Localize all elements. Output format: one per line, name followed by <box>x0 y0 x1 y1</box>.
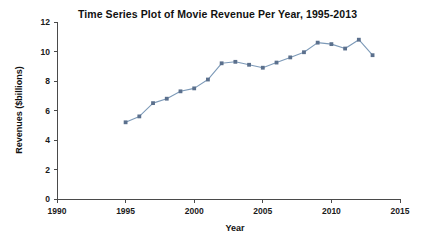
line-chart-plot: 024681012 199019952000200520102015 Reven… <box>0 0 435 242</box>
data-point-marker <box>288 56 292 60</box>
data-point-marker <box>302 50 306 54</box>
y-tick-label: 2 <box>45 165 50 175</box>
y-tick-label: 6 <box>45 106 50 116</box>
x-axis-title: Year <box>225 223 245 233</box>
data-point-marker <box>247 63 251 67</box>
y-axis: 024681012 <box>41 17 57 204</box>
x-tick-label: 2005 <box>253 206 272 216</box>
data-point-marker <box>124 120 128 124</box>
data-point-marker <box>179 89 183 93</box>
data-series <box>124 38 375 124</box>
data-point-marker <box>165 97 169 101</box>
data-point-marker <box>151 101 155 105</box>
x-tick-label: 2010 <box>322 206 341 216</box>
data-point-marker <box>316 41 320 45</box>
y-tick-label: 10 <box>41 47 51 57</box>
data-point-marker <box>357 38 361 42</box>
y-tick-label: 0 <box>45 194 50 204</box>
y-tick-label: 8 <box>45 76 50 86</box>
x-axis: 199019952000200520102015 <box>48 199 410 216</box>
data-point-marker <box>220 61 224 65</box>
x-tick-label: 2000 <box>185 206 204 216</box>
y-tick-label: 4 <box>45 135 50 145</box>
x-tick-label: 2015 <box>391 206 410 216</box>
data-point-marker <box>206 78 210 82</box>
data-point-marker <box>275 61 279 65</box>
x-tick-label: 1995 <box>116 206 135 216</box>
data-point-marker <box>371 53 375 57</box>
data-point-marker <box>233 60 237 64</box>
data-point-marker <box>261 66 265 70</box>
data-point-marker <box>192 86 196 90</box>
y-tick-label: 12 <box>41 17 51 27</box>
data-point-marker <box>330 42 334 46</box>
chart-figure: Time Series Plot of Movie Revenue Per Ye… <box>0 0 435 242</box>
y-axis-title: Revenues ($billions) <box>14 66 24 154</box>
series-line <box>126 40 373 123</box>
data-point-marker <box>137 115 141 119</box>
data-point-marker <box>343 47 347 51</box>
x-tick-label: 1990 <box>48 206 67 216</box>
